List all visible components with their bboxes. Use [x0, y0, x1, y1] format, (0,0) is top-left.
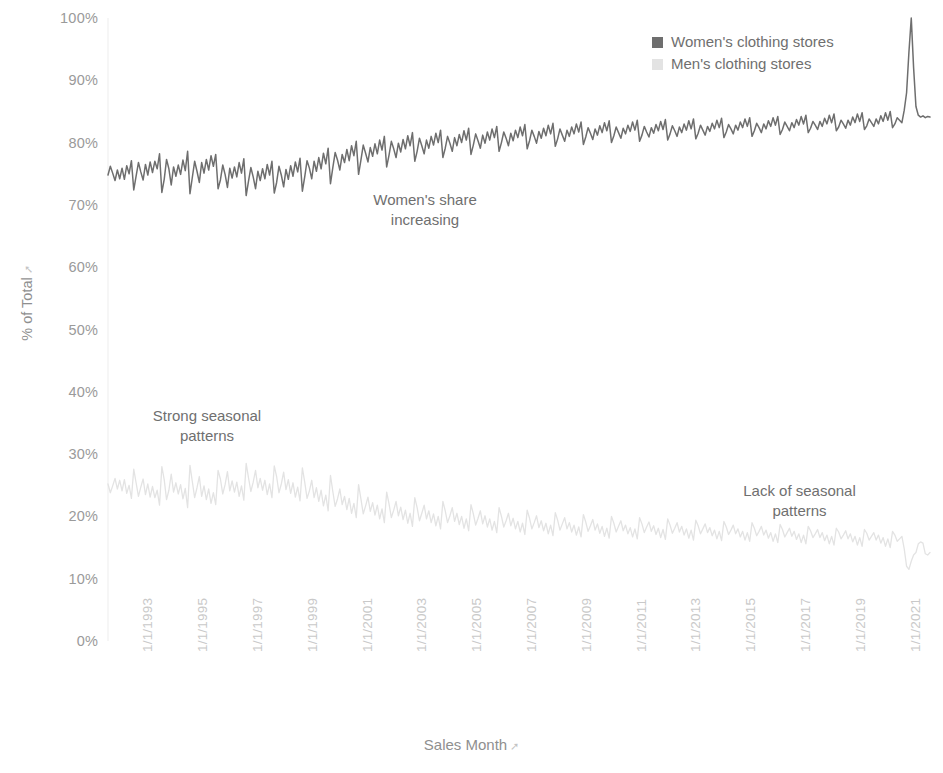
x-axis-tick-label: 1/1/1993: [140, 598, 155, 652]
y-axis-tick-label: 20%: [28, 509, 98, 524]
x-axis-tick-label: 1/1/2003: [414, 598, 429, 652]
legend-item-mens[interactable]: Men's clothing stores: [652, 55, 834, 74]
x-axis-tick-label: 1/1/2021: [908, 598, 923, 652]
x-axis-tick-label: 1/1/1999: [305, 598, 320, 652]
x-axis-tick-label: 1/1/2011: [634, 599, 649, 652]
chart-legend: Women's clothing stores Men's clothing s…: [652, 33, 834, 74]
x-axis-tick-label: 1/1/2017: [798, 598, 813, 652]
y-axis-tick-label: 100%: [28, 11, 98, 26]
y-axis-tick-label: 0%: [28, 634, 98, 649]
annotation-lack-seasonal: Lack of seasonal patterns: [712, 481, 887, 521]
x-axis-tick-label: 1/1/1997: [250, 598, 265, 652]
y-axis-title[interactable]: % of Total➚: [19, 243, 35, 363]
legend-swatch-mens-icon: [652, 59, 663, 70]
y-axis-tick-label: 80%: [28, 136, 98, 151]
x-axis-tick-label: 1/1/2005: [469, 598, 484, 652]
x-axis-tick-label: 1/1/2007: [524, 598, 539, 652]
y-axis-tick-label: 40%: [28, 385, 98, 400]
annotation-strong-seasonal: Strong seasonal patterns: [122, 406, 292, 446]
x-axis-title[interactable]: Sales Month➚: [0, 736, 943, 753]
x-axis-tick-labels: 1/1/19931/1/19951/1/19971/1/19991/1/2001…: [0, 652, 943, 732]
x-axis-tick-label: 1/1/2009: [579, 598, 594, 652]
x-axis-tick-label: 1/1/2015: [743, 598, 758, 652]
y-axis-tick-label: 70%: [28, 198, 98, 213]
legend-item-womens[interactable]: Women's clothing stores: [652, 33, 834, 52]
y-axis-tick-label: 60%: [28, 260, 98, 275]
y-axis-tick-label: 90%: [28, 73, 98, 88]
x-axis-tick-label: 1/1/2013: [688, 598, 703, 652]
x-axis-tick-label: 1/1/1995: [195, 598, 210, 652]
y-axis-title-text: % of Total: [19, 277, 35, 340]
annotation-womens-share: Women's share increasing: [345, 190, 505, 230]
sort-ascending-icon[interactable]: ➚: [22, 265, 35, 274]
legend-swatch-womens-icon: [652, 37, 663, 48]
legend-label-mens: Men's clothing stores: [671, 55, 811, 74]
y-axis-tick-label: 30%: [28, 447, 98, 462]
y-axis-tick-label: 50%: [28, 323, 98, 338]
x-axis-tick-label: 1/1/2001: [360, 598, 375, 652]
legend-label-womens: Women's clothing stores: [671, 33, 834, 52]
x-axis-title-text: Sales Month: [424, 736, 507, 753]
y-axis-tick-label: 10%: [28, 572, 98, 587]
sort-ascending-icon[interactable]: ➚: [510, 740, 519, 753]
chart-container: 100%90%80%70%60%50%40%30%20%10%0% % of T…: [0, 0, 943, 773]
x-axis-tick-label: 1/1/2019: [853, 598, 868, 652]
